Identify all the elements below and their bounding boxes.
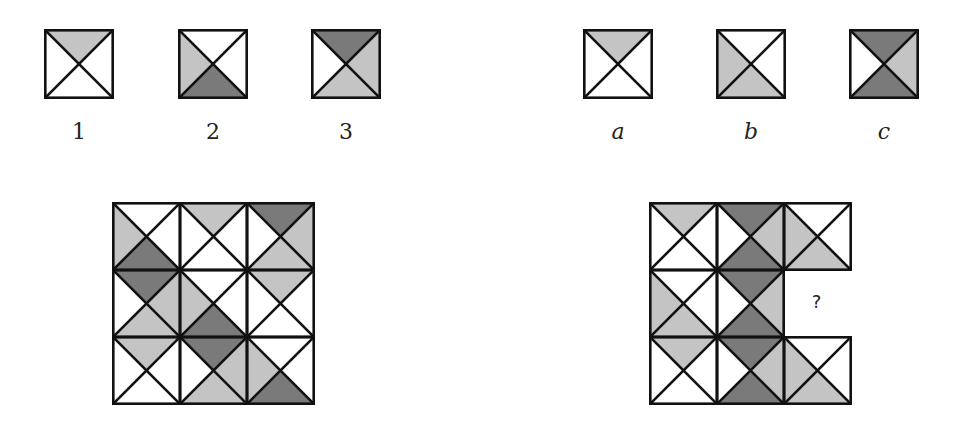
tile-label-c: c — [854, 119, 914, 144]
tile-label-3: 3 — [316, 119, 376, 144]
tile-label-a: a — [588, 119, 648, 144]
grid-cell-1 — [179, 202, 248, 275]
grid-cell-c — [716, 269, 785, 342]
tile-label-2: 2 — [183, 119, 243, 144]
missing-tile-question-mark: ? — [807, 291, 827, 312]
tile-label-1: 1 — [49, 119, 109, 144]
grid-cell-a — [649, 202, 718, 275]
tile-label-b: b — [721, 119, 781, 144]
grid-cell-1 — [246, 269, 315, 342]
grid-cell-2 — [179, 269, 248, 342]
grid-cell-3 — [246, 202, 315, 275]
tile-c — [849, 29, 919, 99]
grid-cell-1 — [112, 336, 181, 409]
tile-2 — [178, 29, 248, 99]
grid-cell-b — [783, 336, 852, 409]
grid-cell-a — [649, 336, 718, 409]
tile-3 — [311, 29, 381, 99]
tile-a — [583, 29, 653, 99]
grid-cell-c — [716, 336, 785, 409]
grid-cell-c — [716, 202, 785, 275]
tile-1 — [44, 29, 114, 99]
grid-cell-2 — [246, 336, 315, 409]
tile-b — [716, 29, 786, 99]
grid-cell-3 — [112, 269, 181, 342]
grid-cell-b — [649, 269, 718, 342]
grid-cell-3 — [179, 336, 248, 409]
grid-cell-b — [783, 202, 852, 275]
grid-cell-2 — [112, 202, 181, 275]
